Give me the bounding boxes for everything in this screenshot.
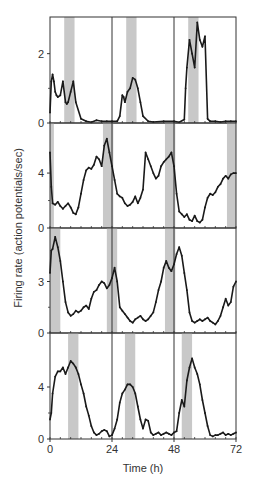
data-point (152, 172, 154, 174)
data-point (171, 152, 173, 154)
data-point (114, 179, 116, 181)
data-point (54, 91, 56, 93)
data-point (85, 120, 87, 122)
data-point (214, 434, 216, 436)
data-point (181, 255, 183, 257)
data-point (158, 289, 160, 291)
data-point (183, 216, 185, 218)
data-point (199, 222, 201, 224)
data-point (116, 281, 118, 283)
data-point (194, 367, 196, 369)
data-point (50, 250, 52, 252)
data-point (225, 120, 227, 122)
data-point (80, 384, 82, 386)
data-point (101, 165, 103, 167)
data-point (168, 433, 170, 435)
data-point (124, 389, 126, 391)
data-point (129, 204, 131, 206)
panel-frame (50, 123, 236, 228)
data-point (72, 313, 74, 315)
y-tick-label: 0 (38, 117, 44, 129)
data-point (88, 308, 90, 310)
data-point (132, 77, 134, 79)
data-point (70, 91, 72, 93)
data-point (189, 312, 191, 314)
data-point (212, 436, 214, 438)
data-point (235, 120, 237, 122)
data-point (209, 434, 211, 436)
shaded-band (64, 17, 74, 123)
data-point (127, 205, 129, 207)
data-point (158, 432, 160, 434)
data-point (57, 246, 59, 248)
data-point (116, 120, 118, 122)
data-point (196, 373, 198, 375)
data-point (191, 53, 193, 55)
data-point (196, 220, 198, 222)
data-point (227, 433, 229, 435)
data-point (173, 263, 175, 265)
data-point (202, 399, 204, 401)
data-point (222, 178, 224, 180)
data-point (57, 96, 59, 98)
data-point (78, 207, 80, 209)
data-point (101, 281, 103, 283)
data-point (132, 386, 134, 388)
data-point (85, 406, 87, 408)
data-point (124, 101, 126, 103)
y-axis-title: Firing rate (action potentials/sec) (12, 148, 24, 308)
data-point (70, 315, 72, 317)
data-point (66, 103, 68, 105)
data-point (140, 101, 142, 103)
y-tick-label: 3 (38, 276, 44, 288)
data-point (75, 101, 77, 103)
data-point (199, 384, 201, 386)
data-point (52, 74, 54, 76)
data-point (62, 367, 64, 369)
data-point (93, 164, 95, 166)
data-point (191, 220, 193, 222)
data-point (54, 204, 56, 206)
data-point (121, 94, 123, 96)
data-point (209, 320, 211, 322)
data-point (233, 172, 235, 174)
data-point (114, 428, 116, 430)
data-point (53, 81, 55, 83)
data-point (214, 120, 216, 122)
data-point (62, 208, 64, 210)
data-point (178, 211, 180, 213)
data-point (119, 115, 121, 117)
data-point (96, 434, 98, 436)
data-point (212, 194, 214, 196)
data-point (147, 318, 149, 320)
data-point (96, 119, 98, 121)
data-point (52, 393, 54, 395)
data-point (137, 406, 139, 408)
panel-3: 03 (38, 228, 237, 339)
data-point (119, 306, 121, 308)
data-point (49, 272, 51, 274)
data-point (93, 291, 95, 293)
data-point (67, 312, 69, 314)
data-point (230, 434, 232, 436)
data-point (111, 165, 113, 167)
data-point (98, 433, 100, 435)
data-point (145, 152, 147, 154)
data-point (235, 172, 237, 174)
data-point (111, 277, 113, 279)
y-tick-label: 0 (38, 433, 44, 445)
data-point (168, 156, 170, 158)
data-point (90, 425, 92, 427)
data-point (49, 112, 51, 114)
data-point (121, 393, 123, 395)
data-point (207, 197, 209, 199)
data-point (137, 317, 139, 319)
data-point (114, 267, 116, 269)
data-point (142, 428, 144, 430)
data-point (59, 260, 61, 262)
data-point (132, 201, 134, 203)
data-point (191, 320, 193, 322)
data-point (65, 101, 67, 103)
data-point (83, 306, 85, 308)
data-point (183, 272, 185, 274)
